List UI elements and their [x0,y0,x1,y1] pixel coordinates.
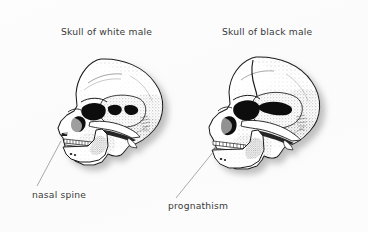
title-left-skull: Skull of white male [61,27,152,37]
skull-illustration-right [198,49,340,185]
comparative-skull-figure: Skull of white male Skull of black male … [0,0,375,232]
annotation-label-prognathism: prognathism [168,201,228,211]
right-edge-strip [368,0,375,232]
annotation-label-nasal-spine: nasal spine [32,190,86,200]
title-right-skull: Skull of black male [222,27,312,37]
skull-illustration-left [44,50,184,182]
